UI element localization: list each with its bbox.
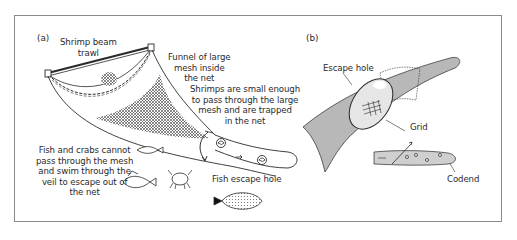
crab-icon <box>168 170 192 189</box>
grid-escape-device-illustration <box>303 57 460 172</box>
label-shrimp-beam-trawl: Shrimp beam trawl <box>60 37 117 58</box>
label-grid: Grid <box>410 122 428 133</box>
panel-b-tag: (b) <box>306 33 318 43</box>
label-codend: Codend <box>447 174 479 185</box>
panel-a-tag: (a) <box>37 33 49 43</box>
codend-illustration <box>374 142 456 165</box>
label-escape-hole: Escape hole <box>323 63 374 74</box>
label-funnel-of-large-mesh: Funnel of large mesh inside the net <box>168 52 231 84</box>
label-fish-escape-hole: Fish escape hole <box>212 174 281 185</box>
label-shrimps-trapped: Shrimps are small enough to pass through… <box>190 84 300 126</box>
flatfish-icon <box>214 193 262 210</box>
fish-icon <box>137 147 163 154</box>
label-fish-and-crabs-escape: Fish and crabs cannot pass through the m… <box>36 145 133 198</box>
